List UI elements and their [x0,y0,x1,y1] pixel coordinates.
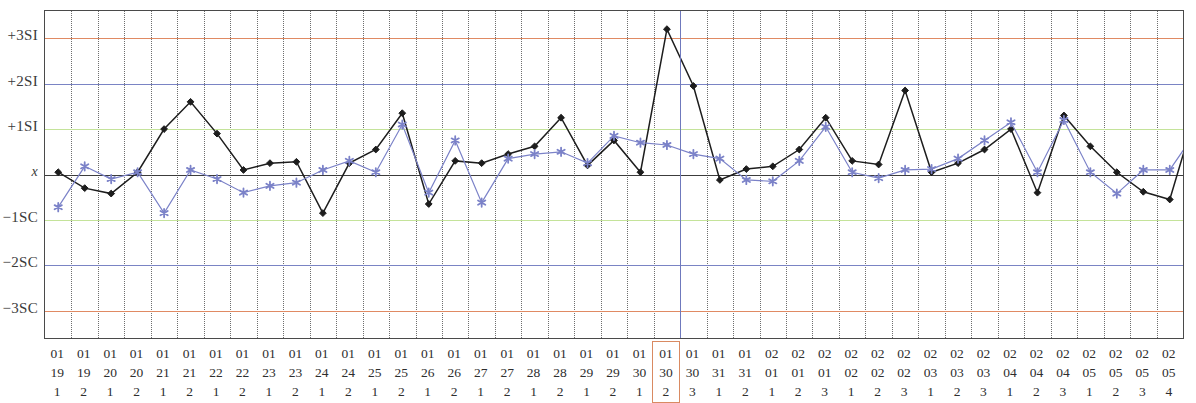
data-point-marker[interactable] [1087,168,1094,176]
x-tick-column[interactable]: 01291 [573,344,599,401]
x-tick-column[interactable]: 02043 [1050,344,1076,401]
data-point-marker[interactable] [81,185,88,192]
y-tick-label-4: −1SC [2,209,38,226]
x-tick-column[interactable]: 02051 [1076,344,1102,401]
data-point-marker[interactable] [1166,196,1173,203]
x-tick-column[interactable]: 02041 [997,344,1023,401]
x-tick-month: 01 [547,344,573,363]
data-point-marker[interactable] [372,168,379,176]
x-tick-day: 21 [150,363,176,382]
data-point-marker[interactable] [902,87,909,94]
x-tick-shift: 1 [467,382,493,401]
x-tick-column[interactable]: 02032 [944,344,970,401]
x-tick-shift: 2 [494,382,520,401]
x-tick-day: 20 [97,363,123,382]
x-tick-column[interactable]: 02031 [917,344,943,401]
data-point-marker[interactable] [319,166,326,174]
x-tick-column[interactable]: 01222 [229,344,255,401]
x-tick-column[interactable]: 01301 [626,344,652,401]
x-tick-column[interactable]: 02042 [1023,344,1049,401]
x-tick-column[interactable]: 01251 [362,344,388,401]
x-tick-column[interactable]: 02021 [838,344,864,401]
x-tick-month: 01 [176,344,202,363]
x-tick-column[interactable]: 01252 [388,344,414,401]
x-tick-column[interactable]: 01192 [70,344,96,401]
x-tick-column[interactable]: 01232 [282,344,308,401]
x-tick-column[interactable]: 01303 [679,344,705,401]
x-tick-month: 01 [97,344,123,363]
x-tick-shift: 2 [282,382,308,401]
x-tick-column[interactable]: 01241 [309,344,335,401]
data-point-marker[interactable] [478,160,485,167]
data-point-marker[interactable] [319,210,326,217]
x-tick-column[interactable]: 01281 [520,344,546,401]
x-tick-column[interactable]: 02023 [891,344,917,401]
x-tick-column[interactable]: 01221 [203,344,229,401]
data-point-marker[interactable] [981,136,988,144]
data-point-marker[interactable] [425,201,432,208]
data-point-marker[interactable] [293,158,300,165]
x-tick-month: 01 [362,344,388,363]
x-tick-month: 01 [626,344,652,363]
x-tick-month: 01 [282,344,308,363]
x-tick-column[interactable]: 02054 [1156,344,1182,401]
x-tick-column[interactable]: 01271 [467,344,493,401]
x-tick-column[interactable]: 01311 [706,344,732,401]
x-tick-column[interactable]: 02011 [759,344,785,401]
x-tick-shift: 2 [176,382,202,401]
x-tick-column[interactable]: 02053 [1129,344,1155,401]
x-tick-shift: 3 [811,382,837,401]
x-tick-column[interactable]: 01302 [653,344,679,401]
data-point-marker[interactable] [875,161,882,168]
x-tick-month: 01 [203,344,229,363]
x-tick-column[interactable]: 01242 [335,344,361,401]
data-point-marker[interactable] [213,175,220,183]
data-point-marker[interactable] [1007,118,1014,126]
x-tick-column[interactable]: 02012 [785,344,811,401]
x-tick-column[interactable]: 01282 [547,344,573,401]
x-tick-column[interactable]: 01201 [97,344,123,401]
data-point-marker[interactable] [240,188,247,196]
data-point-marker[interactable] [1034,168,1041,176]
data-point-marker[interactable] [267,160,274,167]
x-tick-shift: 1 [309,382,335,401]
x-tick-column[interactable]: 02022 [864,344,890,401]
data-point-marker[interactable] [55,169,62,176]
data-point-marker[interactable] [108,175,115,183]
x-tick-shift: 2 [1103,382,1129,401]
x-tick-column[interactable]: 02013 [811,344,837,401]
x-tick-column[interactable]: 01292 [600,344,626,401]
x-tick-column[interactable]: 01212 [176,344,202,401]
data-point-marker[interactable] [690,83,697,90]
data-point-marker[interactable] [1034,189,1041,196]
data-point-marker[interactable] [187,166,194,174]
data-point-marker[interactable] [452,136,459,144]
data-point-marker[interactable] [849,157,856,164]
x-tick-column[interactable]: 01272 [494,344,520,401]
x-tick-shift: 2 [441,382,467,401]
x-tick-day: 05 [1076,363,1102,382]
x-tick-column[interactable]: 01202 [123,344,149,401]
x-tick-column[interactable]: 02033 [970,344,996,401]
data-point-marker[interactable] [452,157,459,164]
x-tick-column[interactable]: 01191 [44,344,70,401]
x-tick-month: 02 [891,344,917,363]
x-tick-month: 02 [1103,344,1129,363]
x-tick-column[interactable]: 01261 [415,344,441,401]
x-tick-day: 19 [44,363,70,382]
x-tick-month: 01 [44,344,70,363]
x-tick-month: 01 [520,344,546,363]
data-point-marker[interactable] [743,166,750,173]
plot-area[interactable] [44,10,1184,339]
x-tick-column[interactable]: 02052 [1103,344,1129,401]
x-tick-day: 30 [679,363,705,382]
x-tick-column[interactable]: 01211 [150,344,176,401]
x-tick-month: 01 [256,344,282,363]
x-tick-column[interactable]: 01312 [732,344,758,401]
x-tick-shift: 1 [917,382,943,401]
data-point-marker[interactable] [664,26,671,33]
x-tick-column[interactable]: 01262 [441,344,467,401]
data-point-marker[interactable] [478,198,485,206]
data-point-marker[interactable] [716,177,723,184]
x-tick-column[interactable]: 01231 [256,344,282,401]
